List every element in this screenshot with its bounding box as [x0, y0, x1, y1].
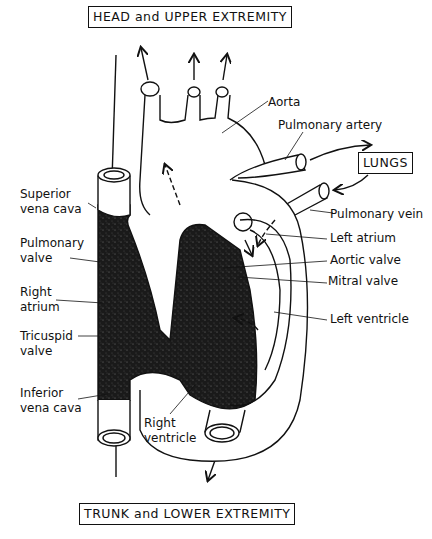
label-left-ventricle: Left ventricle [330, 312, 409, 327]
label-pulmonary-artery: Pulmonary artery [278, 118, 382, 133]
label-pulmonary-valve-line1: Pulmonary [20, 236, 84, 251]
arrow-head-out-3 [223, 55, 227, 80]
arrow-from-lungs [335, 175, 368, 190]
label-aorta: Aorta [268, 95, 300, 110]
label-right-ventricle-line2: ventricle [144, 431, 196, 446]
label-right-atrium-line2: atrium [20, 300, 60, 315]
heart-circulation-diagram: HEAD and UPPER EXTREMITY LUNGS TRUNK and… [0, 0, 432, 539]
label-inferior-vena-cava-line1: Inferior [20, 386, 63, 401]
label-aortic-valve: Aortic valve [330, 253, 401, 268]
label-inferior-vena-cava-line2: vena cava [20, 401, 82, 416]
arrow-head-out-1 [141, 48, 148, 80]
lungs-box: LUNGS [358, 152, 413, 174]
label-tricuspid-valve-line1: Tricuspid [20, 329, 73, 344]
label-mitral-valve: Mitral valve [328, 274, 398, 289]
heart-illustration [0, 0, 432, 539]
head-upper-extremity-box: HEAD and UPPER EXTREMITY [88, 6, 292, 28]
label-tricuspid-valve-line2: valve [20, 344, 52, 359]
label-right-atrium-line1: Right [20, 285, 52, 300]
label-left-atrium: Left atrium [330, 231, 396, 246]
label-superior-vena-cava-line2: vena cava [20, 202, 82, 217]
label-pulmonary-vein: Pulmonary vein [330, 207, 423, 222]
label-right-ventricle-line1: Right [144, 416, 176, 431]
arrow-svc-in [112, 55, 116, 180]
label-pulmonary-valve-line2: valve [20, 251, 52, 266]
trunk-lower-extremity-box: TRUNK and LOWER EXTREMITY [79, 503, 295, 525]
label-superior-vena-cava-line1: Superior [20, 187, 71, 202]
